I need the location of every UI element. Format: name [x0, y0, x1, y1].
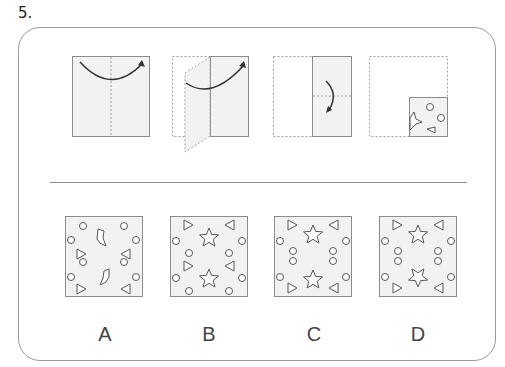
option-d-figure[interactable] — [379, 216, 459, 298]
circle-icon — [427, 104, 434, 111]
fold-step-3 — [273, 56, 353, 138]
option-d-label[interactable]: D — [398, 323, 438, 346]
option-b-label[interactable]: B — [189, 323, 229, 346]
circle-icon — [438, 115, 445, 122]
option-a-figure[interactable] — [65, 216, 145, 298]
fold-step-2 — [172, 55, 257, 155]
fold-step-1 — [72, 56, 152, 138]
option-c-label[interactable]: C — [294, 323, 334, 346]
fold-step-4 — [369, 56, 449, 138]
question-number: 5. — [18, 4, 32, 22]
section-divider — [50, 182, 467, 183]
option-c-figure[interactable] — [274, 216, 354, 298]
option-a-label[interactable]: A — [85, 323, 125, 346]
option-b-figure[interactable] — [170, 216, 250, 298]
